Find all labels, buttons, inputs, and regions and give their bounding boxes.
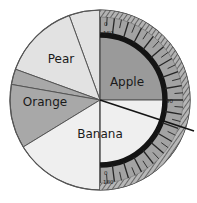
pie-label-apple: Apple	[110, 75, 144, 89]
protractor-number-bottom-0: 0	[104, 170, 108, 176]
pie-label-orange: Orange	[23, 95, 67, 109]
protractor-number-bottom-180: 180	[103, 179, 114, 185]
figure-canvas: 0 180 90 0 180 Pear Orange Apple Banana	[0, 0, 197, 203]
pie-label-banana: Banana	[77, 127, 123, 141]
protractor-number-right-90: 90	[166, 98, 173, 104]
protractor-number-top-180: 180	[103, 30, 114, 36]
protractor-pie-chart-figure: 0 180 90 0 180 Pear Orange Apple Banana	[0, 0, 197, 203]
protractor	[100, 10, 190, 190]
protractor-number-top-0: 0	[104, 21, 108, 27]
pie-label-pear: Pear	[48, 52, 75, 66]
